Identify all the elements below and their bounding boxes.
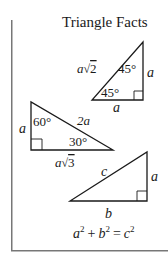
bottom-angle-label: 30° bbox=[69, 134, 87, 149]
top-angle-label: 60° bbox=[33, 114, 51, 129]
horizontal-side-label: a√3 bbox=[55, 155, 75, 170]
bottom-angle-label: 45° bbox=[101, 85, 119, 100]
hypotenuse-label: 2a bbox=[77, 113, 91, 128]
pythagorean-formula: a2+b2=c2 bbox=[73, 224, 135, 241]
vertical-side-label: a bbox=[147, 65, 154, 80]
right-angle-marker bbox=[137, 191, 147, 201]
right-angle-marker bbox=[134, 91, 143, 100]
triangle-pythagorean-shape bbox=[70, 152, 147, 201]
right-angle-marker bbox=[31, 139, 42, 150]
vertical-side-label: a bbox=[19, 121, 26, 136]
vertical-side-label: a bbox=[151, 169, 158, 184]
top-angle-label: 45° bbox=[118, 61, 136, 76]
triangle-diagrams: a√2 45° 45° a a a 60° 2a 30° a√3 c a b a… bbox=[0, 0, 168, 258]
hypotenuse-label: a√2 bbox=[77, 61, 97, 76]
triangle-pythagorean: c a b bbox=[70, 152, 158, 221]
horizontal-side-label: a bbox=[113, 100, 120, 115]
triangle-30-60-90: a 60° 2a 30° a√3 bbox=[19, 102, 113, 170]
horizontal-side-label: b bbox=[105, 206, 112, 221]
triangle-45-45-90: a√2 45° 45° a a bbox=[77, 42, 154, 115]
hypotenuse-label: c bbox=[101, 164, 108, 179]
